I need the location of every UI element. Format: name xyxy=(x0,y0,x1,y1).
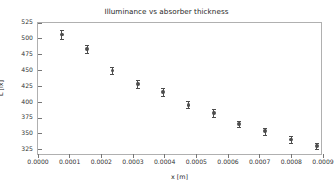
x-axis-label: x [m] xyxy=(37,173,322,181)
x-tick-mark xyxy=(101,154,102,158)
y-tick-label: 350 xyxy=(21,129,33,136)
x-tick-label: 0.0000 xyxy=(27,158,48,165)
data-point-marker xyxy=(237,122,241,126)
error-bar-cap-top xyxy=(263,128,267,129)
x-tick-label: 0.0005 xyxy=(186,158,207,165)
x-tick-mark xyxy=(69,154,70,158)
y-tick-label: 525 xyxy=(21,18,33,25)
y-tick-mark xyxy=(38,149,42,150)
y-tick-mark xyxy=(38,133,42,134)
data-point-marker xyxy=(187,103,191,107)
error-bar-cap-bottom xyxy=(237,127,241,128)
error-bar-cap-bottom xyxy=(186,108,190,109)
x-tick-label: 0.0008 xyxy=(281,158,302,165)
y-tick-mark xyxy=(38,23,42,24)
x-tick-label: 0.0001 xyxy=(59,158,80,165)
y-tick-label: 450 xyxy=(21,66,33,73)
error-bar-cap-top xyxy=(212,109,216,110)
data-point-marker xyxy=(136,82,140,86)
error-bar-cap-bottom xyxy=(136,88,140,89)
y-tick-label: 375 xyxy=(21,113,33,120)
data-point-marker xyxy=(289,138,293,142)
error-bar-cap-top xyxy=(161,88,165,89)
x-tick-label: 0.0003 xyxy=(122,158,143,165)
data-point-marker xyxy=(85,47,89,51)
y-tick-label: 475 xyxy=(21,50,33,57)
error-bar-cap-bottom xyxy=(263,135,267,136)
x-tick-label: 0.0006 xyxy=(217,158,238,165)
data-point-marker xyxy=(161,90,165,94)
x-tick-mark xyxy=(164,154,165,158)
x-tick-mark xyxy=(196,154,197,158)
data-point-marker xyxy=(212,111,216,115)
data-point-marker xyxy=(111,69,115,73)
error-bar-cap-top xyxy=(60,30,64,31)
y-tick-mark xyxy=(38,38,42,39)
plot-area: 325350375400425450475500525 0.00000.0001… xyxy=(37,22,322,155)
x-tick-mark xyxy=(38,154,39,158)
y-tick-mark xyxy=(38,54,42,55)
chart-title: Illuminance vs absorber thickness xyxy=(0,7,333,16)
error-bar-cap-bottom xyxy=(212,117,216,118)
data-point-marker xyxy=(263,129,267,133)
error-bar-cap-bottom xyxy=(315,149,319,150)
x-tick-label: 0.0002 xyxy=(91,158,112,165)
x-tick-label: 0.0004 xyxy=(154,158,175,165)
y-tick-label: 425 xyxy=(21,82,33,89)
y-tick-mark xyxy=(38,118,42,119)
y-tick-label: 400 xyxy=(21,98,33,105)
error-bar-cap-bottom xyxy=(85,53,89,54)
x-tick-mark xyxy=(323,154,324,158)
error-bar-cap-bottom xyxy=(110,74,114,75)
error-bar-cap-top xyxy=(136,80,140,81)
y-tick-mark xyxy=(38,102,42,103)
error-bar-cap-top xyxy=(85,45,89,46)
x-tick-mark xyxy=(228,154,229,158)
data-point-marker xyxy=(315,144,319,148)
y-tick-mark xyxy=(38,70,42,71)
y-tick-label: 325 xyxy=(21,145,33,152)
data-point-marker xyxy=(60,33,64,37)
x-tick-mark xyxy=(291,154,292,158)
error-bar-cap-bottom xyxy=(289,143,293,144)
y-tick-mark xyxy=(38,86,42,87)
x-tick-mark xyxy=(133,154,134,158)
error-bar-cap-bottom xyxy=(161,96,165,97)
x-tick-label: 0.0009 xyxy=(312,158,333,165)
x-tick-label: 0.0007 xyxy=(249,158,270,165)
y-tick-label: 500 xyxy=(21,34,33,41)
y-axis-label: L [lx] xyxy=(0,80,5,96)
error-bar-cap-top xyxy=(186,101,190,102)
x-tick-mark xyxy=(259,154,260,158)
error-bar-cap-bottom xyxy=(60,39,64,40)
